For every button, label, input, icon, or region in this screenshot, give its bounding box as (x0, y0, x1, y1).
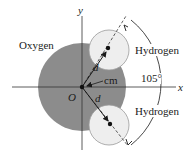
hydrogen-nucleus-top (106, 46, 110, 50)
distance-bottom-label: d (95, 92, 101, 104)
hydrogen-top-label: Hydrogen (135, 44, 179, 56)
distance-top-label: d (93, 61, 99, 73)
hydrogen-nucleus-bottom (108, 122, 112, 126)
origin-point (80, 85, 84, 89)
y-axis-label: y (77, 4, 83, 16)
center-of-mass-label: cm (104, 74, 118, 86)
hydrogen-bottom-label: Hydrogen (135, 105, 179, 117)
water-molecule-diagram: Oxygen Hydrogen Hydrogen 105° d d cm O x… (0, 0, 192, 162)
angle-label: 105° (141, 72, 162, 84)
arrowhead-top-icon (124, 25, 128, 31)
x-axis-label: x (177, 81, 183, 93)
origin-label: O (68, 91, 76, 103)
oxygen-label: Oxygen (19, 39, 54, 51)
